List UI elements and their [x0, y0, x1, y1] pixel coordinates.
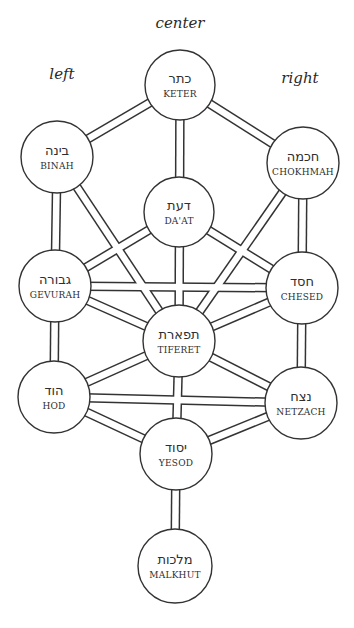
node-hod-latin: HOD: [42, 402, 65, 411]
column-label-center: center: [155, 14, 204, 32]
node-chokhmah: חכמה CHOKHMAH: [272, 150, 334, 177]
node-chokhmah-latin: CHOKHMAH: [272, 168, 334, 177]
node-chesed-hebrew: חסד: [281, 275, 323, 288]
node-gevurah-latin: GEVURAH: [30, 291, 80, 300]
node-malkhut-hebrew: מלכות: [149, 553, 200, 566]
node-tiferet-hebrew: תפארת: [157, 328, 200, 341]
node-tiferet: תפארת TIFERET: [157, 328, 200, 355]
node-netzach: נצח NETZACH: [276, 390, 325, 417]
node-chesed-latin: CHESED: [281, 293, 323, 302]
node-chesed: חסד CHESED: [281, 275, 323, 302]
node-keter-hebrew: כתר: [163, 72, 197, 85]
node-gevurah: גבורה GEVURAH: [30, 273, 80, 300]
node-binah: בינה BINAH: [40, 144, 73, 171]
node-netzach-latin: NETZACH: [276, 408, 325, 417]
column-label-left: left: [49, 65, 74, 83]
column-label-right: right: [281, 69, 318, 87]
node-malkhut-latin: MALKHUT: [149, 571, 200, 580]
node-yesod-latin: YESOD: [159, 459, 193, 468]
path-gevurah-chesed: [55, 286, 302, 288]
node-keter-latin: KETER: [163, 90, 197, 99]
node-tiferet-latin: TIFERET: [157, 346, 200, 355]
node-malkhut: מלכות MALKHUT: [149, 553, 200, 580]
node-daat-hebrew: דעת: [164, 199, 193, 212]
node-daat-latin: DA'AT: [164, 217, 193, 226]
node-keter: כתר KETER: [163, 72, 197, 99]
node-yesod: יסוד YESOD: [159, 441, 193, 468]
node-gevurah-hebrew: גבורה: [30, 273, 80, 286]
node-binah-latin: BINAH: [40, 162, 73, 171]
node-netzach-hebrew: נצח: [276, 390, 325, 403]
node-binah-hebrew: בינה: [40, 144, 73, 157]
node-chokhmah-hebrew: חכמה: [272, 150, 334, 163]
node-daat: דעת DA'AT: [164, 199, 193, 226]
node-hod-hebrew: הוד: [42, 384, 65, 397]
node-hod: הוד HOD: [42, 384, 65, 411]
node-yesod-hebrew: יסוד: [159, 441, 193, 454]
